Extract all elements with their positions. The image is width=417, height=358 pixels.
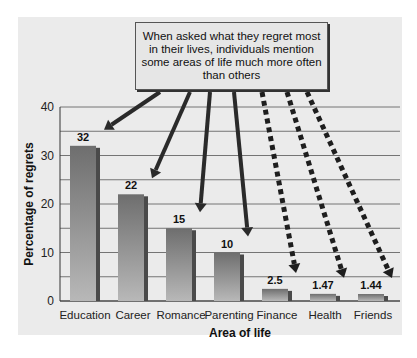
value-label: 10	[221, 238, 233, 250]
value-label: 22	[125, 179, 137, 191]
y-tick-label: 10	[41, 246, 55, 260]
annotation-callout: When asked what they regret most in thei…	[135, 22, 328, 90]
y-tick-label: 0	[47, 294, 54, 308]
value-label: 1.44	[360, 279, 382, 291]
value-label: 2.5	[267, 274, 282, 286]
annotation-arrow	[262, 92, 294, 264]
bar-side	[144, 196, 148, 301]
x-tick-label: Parenting	[204, 309, 253, 321]
annotation-arrow	[201, 92, 210, 203]
x-tick-label: Finance	[257, 309, 298, 321]
bar-parenting	[214, 253, 240, 302]
x-tick-label: Friends	[354, 309, 393, 321]
y-tick-label: 20	[41, 197, 55, 211]
arrowhead-icon	[195, 203, 207, 212]
bar-career	[118, 194, 144, 301]
y-tick-label: 40	[41, 100, 55, 114]
y-axis-label: Percentage of regrets	[22, 142, 36, 266]
annotation-text: When asked what they regret most in thei…	[140, 30, 323, 82]
value-label: 32	[77, 131, 89, 143]
bar-health	[310, 294, 336, 301]
y-tick-label: 30	[41, 149, 55, 163]
bar-side	[240, 255, 244, 302]
arrowhead-icon	[241, 227, 253, 237]
arrowhead-icon	[336, 268, 347, 278]
bar-side	[96, 148, 100, 301]
x-tick-label: Health	[308, 309, 341, 321]
annotation-arrow	[234, 92, 247, 228]
x-tick-label: Romance	[156, 309, 205, 321]
annotation-arrow	[287, 92, 341, 269]
bar-romance	[166, 228, 192, 301]
annotation-arrow	[111, 92, 160, 125]
bar-side	[336, 296, 340, 301]
x-axis-label: Area of life	[209, 326, 271, 340]
bar-education	[70, 146, 96, 301]
value-label: 15	[173, 213, 185, 225]
value-label: 1.47	[312, 279, 333, 291]
bar-finance	[262, 289, 288, 301]
bar-side	[192, 230, 196, 301]
bar-side	[288, 291, 292, 301]
annotation-arrow	[307, 92, 388, 270]
x-tick-label: Education	[59, 309, 110, 321]
x-tick-label: Career	[115, 309, 150, 321]
arrowhead-icon	[288, 263, 300, 273]
bar-friends	[358, 294, 384, 301]
bar-side	[384, 296, 388, 301]
